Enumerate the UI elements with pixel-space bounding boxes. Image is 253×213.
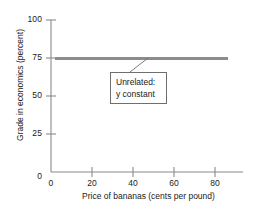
x-tick-label-60: 60 — [163, 178, 185, 188]
y-axis-title: Grade in economics (percent) — [15, 10, 25, 160]
x-tick-label-80: 80 — [204, 178, 226, 188]
x-tick-label-0: 0 — [40, 178, 62, 188]
annotation-unrelated-note: Unrelated: y constant — [110, 72, 167, 104]
x-tick-label-20: 20 — [81, 178, 103, 188]
x-axis-title: Price of bananas (cents per pound) — [51, 191, 246, 201]
annotation-line-2: y constant — [116, 88, 166, 100]
y-tick-label-0: 0 — [10, 171, 42, 181]
annotation-line-1: Unrelated: — [116, 76, 166, 88]
chart-figure: 100 75 50 25 0 0 20 40 60 80 Price of ba… — [0, 0, 253, 213]
x-tick-label-40: 40 — [122, 178, 144, 188]
